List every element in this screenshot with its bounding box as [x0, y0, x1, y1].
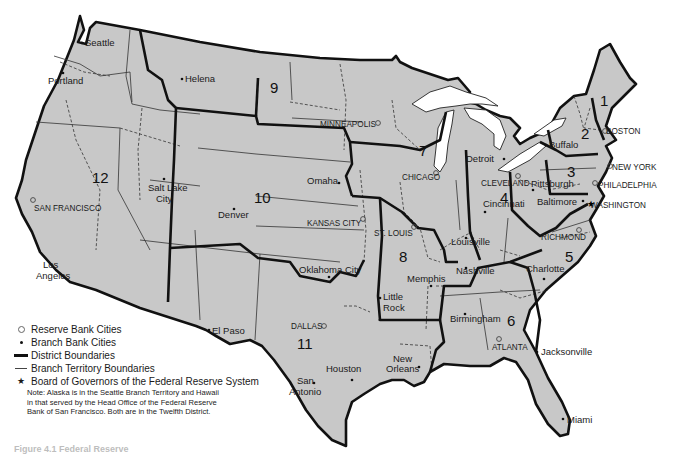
label-richmond: RICHMOND: [541, 233, 586, 242]
legend-label: District Boundaries: [31, 349, 115, 362]
district-number-12: 12: [92, 169, 109, 186]
label-nashville: Nashville: [456, 265, 495, 276]
figure-caption: Figure 4.1 Federal Reserve: [14, 444, 129, 454]
label-detroit: Detroit: [466, 153, 494, 164]
label-st-louis: ST. LOUIS: [374, 229, 413, 238]
label-philadelphia: PHILADELPHIA: [598, 181, 657, 190]
star-icon: ★: [14, 377, 28, 386]
label-dallas: DALLAS: [291, 322, 323, 331]
label-louisville: Louisville: [451, 236, 490, 247]
dot-icon: [14, 341, 28, 344]
label-jacksonville: Jacksonville: [541, 346, 592, 357]
map-legend: Reserve Bank Cities Branch Bank Cities D…: [14, 323, 259, 388]
label-chicago: CHICAGO: [402, 173, 440, 182]
label-birmingham: Birmingham: [450, 313, 501, 324]
label-denver: Denver: [218, 209, 249, 220]
legend-item-branch-territory-boundaries: Branch Territory Boundaries: [14, 362, 259, 375]
thick-line-icon: [14, 354, 28, 357]
legend-item-district-boundaries: District Boundaries: [14, 349, 259, 362]
label-kansas-city: KANSAS CITY: [307, 219, 362, 228]
legend-item-board-of-governors: ★ Board of Governors of the Federal Rese…: [14, 375, 259, 388]
label-oklahoma-city: Oklahoma City: [299, 264, 362, 275]
label-little: Little: [383, 291, 403, 302]
label-buffalo: Buffalo: [549, 139, 578, 150]
district-number-8: 8: [399, 248, 407, 265]
label-atlanta: ATLANTA: [492, 343, 528, 352]
ring-icon: [14, 326, 28, 333]
label-san-antonio: Antonio: [289, 386, 321, 397]
label-san: San: [297, 375, 314, 386]
district-number-6: 6: [507, 312, 515, 329]
label-miami: Miami: [567, 414, 592, 425]
district-number-11: 11: [297, 335, 313, 352]
district-number-1: 1: [600, 92, 608, 109]
district-number-10: 10: [254, 189, 271, 206]
label-minneapolis: MINNEAPOLIS: [320, 120, 377, 129]
board-of-governors-star-icon: ★: [587, 199, 595, 209]
label-little-rock: Rock: [383, 302, 405, 313]
legend-label: Reserve Bank Cities: [31, 323, 122, 336]
label-baltimore: Baltimore: [537, 196, 577, 207]
legend-item-branch-bank-cities: Branch Bank Cities: [14, 336, 259, 349]
label-omaha: Omaha: [307, 175, 339, 186]
label-portland: Portland: [48, 75, 83, 86]
label-houston: Houston: [326, 363, 361, 374]
label-boston: BOSTON: [606, 127, 641, 136]
district-number-5: 5: [565, 248, 573, 265]
district-number-7: 7: [419, 142, 427, 159]
legend-label: Board of Governors of the Federal Reserv…: [31, 375, 259, 388]
legend-note: Note: Alaska is in the Seattle Branch Te…: [27, 388, 222, 417]
legend-item-reserve-bank-cities: Reserve Bank Cities: [14, 323, 259, 336]
label-new-orleans: Orleans: [386, 363, 420, 374]
label-pittsburgh: Pittsburgh: [531, 178, 574, 189]
label-helena: Helena: [185, 73, 216, 84]
district-number-9: 9: [270, 79, 278, 96]
legend-label: Branch Territory Boundaries: [31, 362, 155, 375]
label-los: Los: [43, 259, 59, 270]
label-los-angeles: Angeles: [36, 270, 71, 281]
label-cleveland: CLEVELAND: [481, 179, 530, 188]
label-charlotte: Charlotte: [526, 263, 565, 274]
label-salt-lake: Salt Lake: [148, 182, 188, 193]
label-san-francisco: SAN FRANCISCO: [34, 204, 101, 213]
label-new-york: NEW YORK: [612, 163, 657, 172]
label-salt-lake-city: City: [156, 193, 173, 204]
label-washington: WASHINGTON: [590, 201, 646, 210]
district-number-2: 2: [581, 125, 589, 142]
thin-line-icon: [14, 368, 28, 369]
label-seattle: Seattle: [85, 37, 115, 48]
label-memphis: Memphis: [407, 273, 446, 284]
label-cincinnati: Cincinnati: [483, 198, 525, 209]
legend-label: Branch Bank Cities: [31, 336, 116, 349]
